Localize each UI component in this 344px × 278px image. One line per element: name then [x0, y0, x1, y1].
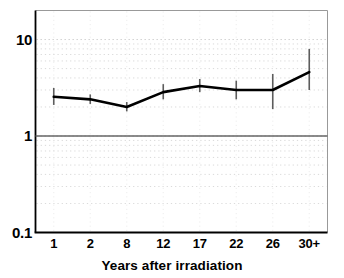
data-line: [54, 72, 310, 107]
error-bars: [54, 49, 310, 112]
y-axis-tick-label: 1: [0, 127, 32, 144]
y-axis-tick-label: 0.1: [0, 224, 32, 241]
chart-figure: 1010.1 1281217222630+ Years after irradi…: [0, 0, 344, 278]
x-axis-tick-label: 30+: [284, 236, 334, 251]
x-axis-title: Years after irradiation: [0, 258, 344, 273]
y-axis-tick-label: 10: [0, 31, 32, 48]
gridlines: [37, 11, 327, 232]
